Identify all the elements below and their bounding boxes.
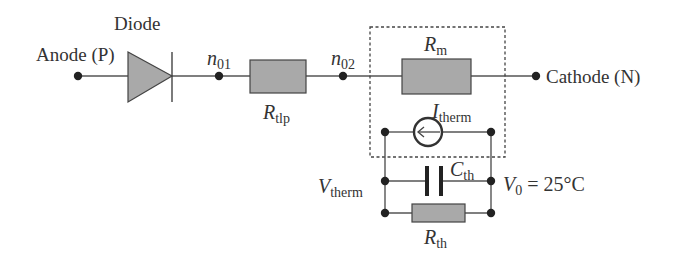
n01-sub: 01 bbox=[217, 57, 231, 72]
node-r-th-left bbox=[381, 209, 389, 217]
r-tlp-sub: tlp bbox=[275, 111, 290, 126]
capacitor-c-th bbox=[425, 166, 443, 196]
anode-terminal bbox=[74, 72, 82, 80]
r-tlp-main: R bbox=[263, 101, 275, 123]
circuit-schematic bbox=[0, 0, 684, 257]
r-m-sub: m bbox=[436, 43, 447, 58]
node-v0 bbox=[487, 177, 495, 185]
n02-main: n bbox=[331, 47, 341, 69]
v0-main: V bbox=[503, 173, 515, 195]
node-n01-label: n01 bbox=[207, 48, 231, 72]
resistor-r-m bbox=[402, 59, 471, 94]
v-therm-sub: therm bbox=[330, 185, 363, 200]
r-tlp-label: Rtlp bbox=[263, 102, 290, 126]
n02-sub: 02 bbox=[341, 57, 355, 72]
r-m-label: Rm bbox=[424, 34, 447, 58]
node-r-th-right bbox=[487, 209, 495, 217]
c-th-label: Cth bbox=[450, 159, 474, 183]
c-th-sub: th bbox=[463, 168, 474, 183]
node-i-therm-right bbox=[487, 128, 495, 136]
node-n02 bbox=[339, 72, 347, 80]
resistor-r-th bbox=[412, 204, 465, 222]
r-th-sub: th bbox=[436, 236, 447, 251]
circuit-diagram: Diode Anode (P) Cathode (N) n01 n02 Rtlp… bbox=[0, 0, 684, 257]
n01-main: n bbox=[207, 47, 217, 69]
v0-value: = 25°C bbox=[522, 173, 585, 195]
diode-symbol bbox=[128, 52, 172, 102]
node-i-therm-left bbox=[381, 128, 389, 136]
r-m-main: R bbox=[424, 33, 436, 55]
r-th-label: Rth bbox=[424, 227, 447, 251]
i-therm-sub: therm bbox=[439, 110, 472, 125]
v-therm-main: V bbox=[318, 175, 330, 197]
node-n02-label: n02 bbox=[331, 48, 355, 72]
anode-label: Anode (P) bbox=[36, 45, 115, 64]
c-th-main: C bbox=[450, 158, 463, 180]
resistor-r-tlp bbox=[250, 60, 306, 93]
cathode-label: Cathode (N) bbox=[546, 67, 640, 86]
cathode-terminal bbox=[532, 72, 540, 80]
node-n01 bbox=[215, 72, 223, 80]
i-therm-main: I bbox=[432, 100, 439, 122]
v-therm-label: Vtherm bbox=[318, 176, 363, 200]
diode-label: Diode bbox=[114, 14, 160, 33]
r-th-main: R bbox=[424, 226, 436, 248]
i-therm-label: Itherm bbox=[432, 101, 471, 125]
node-v-therm bbox=[381, 177, 389, 185]
v0-label: V0 = 25°C bbox=[503, 174, 585, 198]
